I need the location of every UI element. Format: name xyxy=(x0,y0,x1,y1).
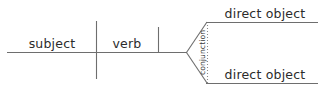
diagram-canvas: subject verb conjunction direct object d… xyxy=(0,0,323,91)
label-subject: subject xyxy=(29,36,76,51)
label-verb: verb xyxy=(113,36,142,51)
sentence-diagram: subject verb conjunction direct object d… xyxy=(0,0,323,91)
label-conjunction: conjunction xyxy=(198,30,207,75)
label-direct-object-top: direct object xyxy=(225,6,306,21)
label-direct-object-bottom: direct object xyxy=(225,67,306,82)
